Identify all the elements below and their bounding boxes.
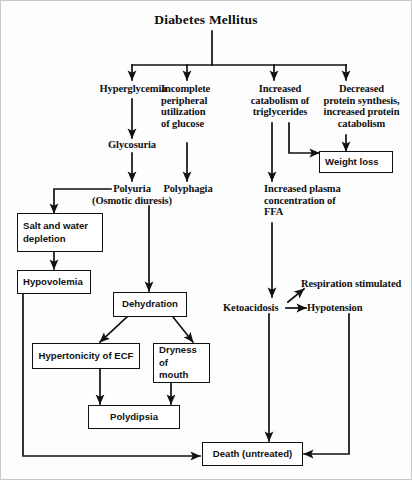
edge-hypotension-death — [304, 314, 349, 454]
node-hypotension: Hypotension — [307, 302, 377, 314]
node-decreased-protein-synthesis: Decreased protein synthesis, increased p… — [312, 83, 411, 129]
node-death-untreated: Death (untreated) — [202, 442, 303, 466]
node-polyphagia: Polyphagia — [153, 183, 223, 195]
node-increased-catabolism-triglycerides: Increased catabolism of triglycerides — [241, 83, 319, 118]
edge-dehydration-hypertonicity — [100, 317, 127, 342]
node-hypertonicity-of-ecf: Hypertonicity of ECF — [32, 343, 140, 369]
flowchart-canvas: Diabetes Mellitus Hyperglycemia Incomple… — [0, 0, 412, 480]
diagram-title: Diabetes Mellitus — [1, 12, 411, 28]
node-dryness-of-mouth: Dryness of mouth — [153, 343, 210, 383]
node-respiration-stimulated: Respiration stimulated — [301, 278, 412, 290]
node-hypovolemia: Hypovolemia — [17, 270, 91, 294]
node-glycosuria: Glycosuria — [91, 139, 173, 151]
node-salt-and-water-depletion: Salt and water depletion — [17, 213, 103, 252]
node-incomplete-peripheral-utilization: Incomplete peripheral utilization of glu… — [161, 83, 235, 129]
edge-ketoacidosis-respiration — [288, 289, 304, 302]
node-ketoacidosis: Ketoacidosis — [223, 302, 287, 314]
node-weight-loss: Weight loss — [319, 151, 393, 173]
edge-dehydration-dryness — [173, 317, 193, 342]
node-polydipsia: Polydipsia — [88, 405, 180, 429]
node-increased-plasma-ffa: Increased plasma concentration of FFA — [264, 183, 364, 218]
node-dehydration: Dehydration — [113, 292, 187, 317]
